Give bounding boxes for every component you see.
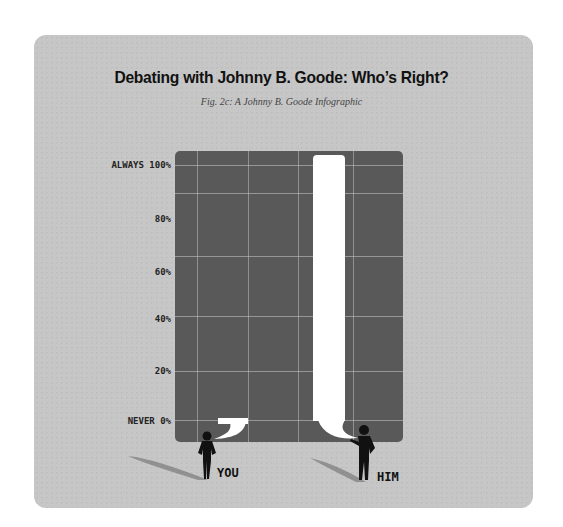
y-label-80: 80% <box>155 214 171 224</box>
chart-title: Debating with Johnny B. Goode: Who’s Rig… <box>23 68 541 88</box>
y-label-20: 20% <box>155 366 171 376</box>
gridline-v4 <box>353 151 354 442</box>
label-him: HIM <box>377 470 399 484</box>
gridline-v3 <box>298 151 299 442</box>
gridline-20 <box>175 371 403 372</box>
chart-plot-area <box>175 151 403 442</box>
y-label-40: 40% <box>155 314 171 324</box>
label-you: YOU <box>217 466 239 480</box>
him-silhouette-icon <box>350 424 378 482</box>
bar-him <box>313 155 345 421</box>
gridline-100 <box>175 165 403 166</box>
y-label-60: 60% <box>155 267 171 277</box>
y-label-100: ALWAYS 100% <box>111 160 171 170</box>
gridline-60 <box>175 256 403 257</box>
gridline-80 <box>175 193 403 194</box>
you-silhouette-icon <box>197 431 217 481</box>
chart-subtitle: Fig. 2c: A Johnny B. Goode Infographic <box>0 96 563 107</box>
gridline-v1 <box>197 151 198 442</box>
gridline-v2 <box>248 151 249 442</box>
gridline-40 <box>175 316 403 317</box>
y-label-0: NEVER 0% <box>128 416 171 426</box>
